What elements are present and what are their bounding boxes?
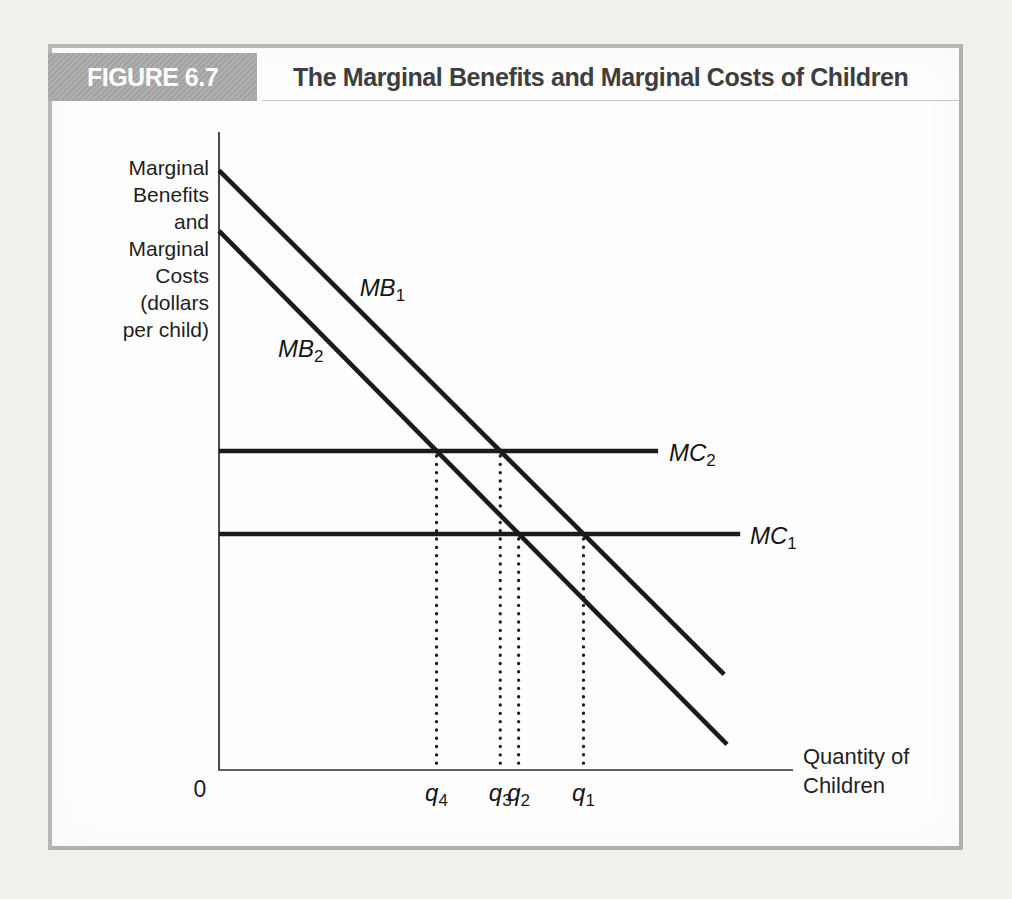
y-axis-label-line: Costs <box>52 262 209 289</box>
label-MC1: MC1 <box>750 522 797 550</box>
chart-area: Marginal Benefits and Marginal Costs (do… <box>52 48 957 838</box>
y-axis-label-line: and <box>52 208 209 235</box>
curve-MB1 <box>219 170 724 674</box>
origin-label: 0 <box>190 776 210 803</box>
y-axis-label: Marginal Benefits and Marginal Costs (do… <box>52 154 209 343</box>
y-axis-label-line: Marginal <box>52 154 209 181</box>
x-axis-label: Quantity of Children <box>803 742 909 800</box>
tick-q4: q4 <box>425 779 448 807</box>
y-axis-label-line: (dollars <box>52 289 209 316</box>
label-MC2: MC2 <box>669 439 716 467</box>
y-axis-label-line: Benefits <box>52 181 209 208</box>
tick-q1: q1 <box>572 779 595 807</box>
x-axis-label-line: Children <box>803 771 909 800</box>
y-axis-label-line: per child) <box>52 316 209 343</box>
label-MB1: MB1 <box>360 274 405 302</box>
label-MB2: MB2 <box>278 335 323 363</box>
x-axis-label-line: Quantity of <box>803 742 909 771</box>
curve-MB2 <box>219 231 727 745</box>
figure-frame: FIGURE 6.7 The Marginal Benefits and Mar… <box>48 44 963 850</box>
y-axis-label-line: Marginal <box>52 235 209 262</box>
tick-q2: q2 <box>507 779 530 807</box>
